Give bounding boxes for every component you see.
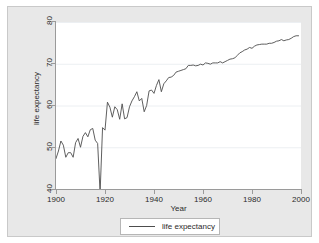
y-axis-title-label: life expectancy [32,72,41,125]
x-tick-mark-2000 [301,190,302,194]
legend[interactable]: life expectancy [120,218,220,235]
x-tick-mark-1940 [154,190,155,194]
x-tick-label-1940: 1940 [136,195,172,204]
x-tick-mark-1960 [203,190,204,194]
legend-label: life expectancy [162,222,215,231]
x-tick-mark-1920 [105,190,106,194]
x-axis-title: Year [56,204,301,213]
life-expectancy-line [56,36,299,189]
plot-region [56,22,301,189]
x-axis-line [55,189,302,190]
x-tick-mark-1900 [56,190,57,194]
y-axis-line [55,21,56,190]
graph-region: life expectancy 80 70 60 50 40 19 [7,6,312,237]
x-tick-label-2000: 2000 [283,195,319,204]
chart-screenshot: life expectancy 80 70 60 50 40 19 [0,0,319,243]
x-tick-label-1980: 1980 [234,195,270,204]
x-tick-label-1900: 1900 [38,195,74,204]
legend-key-line-icon [129,226,155,227]
y-axis-title: life expectancy [30,7,42,189]
x-tick-mark-1980 [252,190,253,194]
series-plot [56,22,301,189]
x-tick-label-1960: 1960 [185,195,221,204]
x-tick-label-1920: 1920 [87,195,123,204]
